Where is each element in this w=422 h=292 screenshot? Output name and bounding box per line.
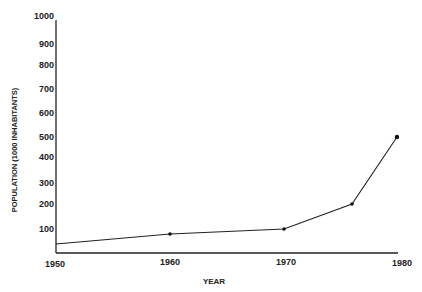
y-axis-label: POPULATION (1000 INHABITANTS) [10, 87, 19, 212]
x-axis-label: YEAR [203, 277, 225, 286]
y-tick-700: 700 [39, 84, 54, 94]
y-tick-labels: 1000 900 800 700 600 500 400 300 200 100 [34, 11, 54, 234]
data-point [395, 135, 399, 139]
x-tick-labels: 1950 1960 1970 1980 [45, 257, 412, 269]
y-tick-1000: 1000 [34, 11, 54, 21]
data-point [282, 227, 286, 231]
y-tick-300: 300 [39, 178, 54, 188]
y-tick-900: 900 [39, 39, 54, 49]
data-point [168, 232, 172, 236]
x-tick-1980: 1980 [392, 258, 412, 268]
y-tick-500: 500 [39, 132, 54, 142]
y-tick-100: 100 [39, 224, 54, 234]
x-tick-1970: 1970 [276, 257, 296, 267]
y-tick-400: 400 [39, 152, 54, 162]
data-series-population [56, 135, 399, 244]
chart: 1000 900 800 700 600 500 400 300 200 100… [0, 0, 422, 292]
y-tick-600: 600 [39, 108, 54, 118]
y-tick-800: 800 [39, 60, 54, 70]
y-tick-200: 200 [39, 199, 54, 209]
x-tick-1950: 1950 [45, 259, 65, 269]
data-point [350, 202, 354, 206]
x-tick-1960: 1960 [160, 257, 180, 267]
